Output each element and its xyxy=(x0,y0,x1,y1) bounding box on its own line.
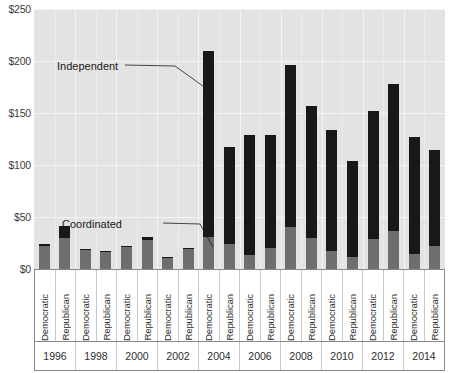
bar-segment-coordinated xyxy=(409,254,420,269)
bar-slot xyxy=(116,9,137,269)
bar-segment-independent xyxy=(388,84,399,231)
bar-segment-coordinated xyxy=(347,257,358,269)
bar-segment-coordinated xyxy=(162,258,173,269)
bar[interactable] xyxy=(142,237,153,269)
x-axis-party-label: Republican xyxy=(101,292,112,341)
x-axis-party-cell: Democratic xyxy=(240,270,261,341)
bar-segment-independent xyxy=(347,161,358,257)
bar[interactable] xyxy=(388,84,399,269)
annotation-independent: Independent xyxy=(57,60,118,72)
bar[interactable] xyxy=(39,244,50,269)
bar-segment-coordinated xyxy=(183,249,194,269)
x-axis-party-label: Republican xyxy=(224,292,235,341)
bars-layer xyxy=(34,9,445,269)
x-axis-year-cell: 2010 xyxy=(322,342,363,370)
y-axis: $0$50$100$150$200$250 xyxy=(0,0,34,280)
bar[interactable] xyxy=(306,106,317,269)
x-axis-party-label: Republican xyxy=(265,292,276,341)
y-tick-label: $0 xyxy=(20,263,31,275)
x-axis-year-cell: 1998 xyxy=(76,342,117,370)
bar[interactable] xyxy=(162,257,173,269)
plot-area xyxy=(34,9,445,269)
bar-slot xyxy=(178,9,199,269)
bar-segment-coordinated xyxy=(121,247,132,269)
bar[interactable] xyxy=(285,65,296,269)
bar[interactable] xyxy=(429,150,440,269)
x-axis: DemocraticRepublicanDemocraticRepublican… xyxy=(34,269,445,373)
bar-slot xyxy=(239,9,260,269)
x-axis-year-cell: 2014 xyxy=(404,342,444,370)
y-tick-label: $50 xyxy=(14,211,31,223)
bar-segment-coordinated xyxy=(39,246,50,269)
bar[interactable] xyxy=(121,246,132,269)
bar-segment-coordinated xyxy=(388,231,399,269)
x-axis-party-label: Republican xyxy=(347,292,358,341)
bar-slot xyxy=(260,9,281,269)
stacked-bar-chart: $0$50$100$150$200$250 Independent Coordi… xyxy=(0,0,452,373)
bar[interactable] xyxy=(244,135,255,269)
bar-segment-coordinated xyxy=(203,237,214,269)
x-axis-year-cell: 2000 xyxy=(117,342,158,370)
x-axis-party-label: Republican xyxy=(142,292,153,341)
bar[interactable] xyxy=(224,147,235,269)
x-axis-party-label: Democratic xyxy=(80,292,91,341)
x-axis-party-cell: Democratic xyxy=(404,270,425,341)
bar[interactable] xyxy=(265,135,276,269)
x-axis-party-cell: Republican xyxy=(138,270,159,341)
bar-slot xyxy=(424,9,445,269)
bar[interactable] xyxy=(409,137,420,269)
x-axis-party-cell: Democratic xyxy=(199,270,220,341)
x-axis-party-label: Democratic xyxy=(326,292,337,341)
bar-segment-independent xyxy=(203,51,214,237)
bar-segment-coordinated xyxy=(429,246,440,269)
x-axis-party-label: Democratic xyxy=(285,292,296,341)
x-axis-party-label: Democratic xyxy=(162,292,173,341)
bar-slot xyxy=(219,9,240,269)
bar[interactable] xyxy=(183,248,194,269)
x-axis-party-cell: Republican xyxy=(179,270,200,341)
bar-slot xyxy=(137,9,158,269)
x-axis-party-label: Democratic xyxy=(203,292,214,341)
bar-segment-independent xyxy=(306,106,317,238)
bar[interactable] xyxy=(347,161,358,269)
x-axis-party-cell: Republican xyxy=(261,270,282,341)
bar-slot xyxy=(281,9,302,269)
x-axis-party-cell: Republican xyxy=(343,270,364,341)
x-axis-year-cell: 2002 xyxy=(158,342,199,370)
bar-slot xyxy=(383,9,404,269)
bar[interactable] xyxy=(59,226,70,269)
x-axis-party-cell: Democratic xyxy=(76,270,97,341)
x-axis-party-cell: Republican xyxy=(220,270,241,341)
bar-segment-independent xyxy=(326,130,337,252)
bar[interactable] xyxy=(203,51,214,269)
bar-segment-independent xyxy=(429,150,440,246)
x-axis-party-label: Republican xyxy=(183,292,194,341)
bar-segment-independent xyxy=(409,137,420,255)
bar-segment-coordinated xyxy=(326,251,337,269)
bar-segment-independent xyxy=(244,135,255,256)
x-axis-party-cell: Democratic xyxy=(363,270,384,341)
bar-slot xyxy=(34,9,55,269)
bar-slot xyxy=(342,9,363,269)
bar[interactable] xyxy=(368,111,379,269)
bar-segment-independent xyxy=(368,111,379,239)
bar[interactable] xyxy=(326,130,337,269)
x-axis-party-cell: Democratic xyxy=(35,270,56,341)
bar[interactable] xyxy=(100,251,111,269)
x-axis-year-row: 1996199820002002200420062008201020122014 xyxy=(34,341,445,371)
bar-slot xyxy=(301,9,322,269)
bar[interactable] xyxy=(80,249,91,269)
bar-segment-independent xyxy=(224,147,235,244)
x-axis-party-label: Republican xyxy=(306,292,317,341)
x-axis-party-label: Democratic xyxy=(408,292,419,341)
bar-slot xyxy=(198,9,219,269)
x-axis-year-cell: 2012 xyxy=(363,342,404,370)
y-tick-label: $250 xyxy=(8,3,31,15)
y-tick-label: $200 xyxy=(8,55,31,67)
x-axis-party-label: Democratic xyxy=(244,292,255,341)
x-axis-party-cell: Republican xyxy=(425,270,445,341)
x-axis-party-row: DemocraticRepublicanDemocraticRepublican… xyxy=(34,269,445,341)
bar-slot xyxy=(363,9,384,269)
bar-segment-coordinated xyxy=(306,238,317,269)
x-axis-party-cell: Republican xyxy=(384,270,405,341)
